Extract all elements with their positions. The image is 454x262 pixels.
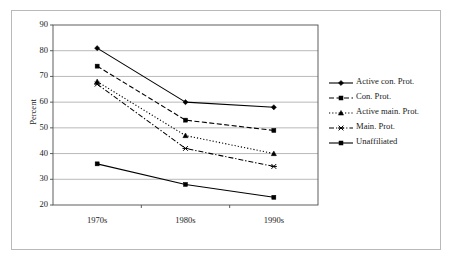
series-lines bbox=[97, 48, 274, 197]
series-line bbox=[97, 48, 274, 107]
plot-frame bbox=[53, 25, 318, 205]
legend-item-label: Active con. Prot. bbox=[356, 75, 414, 87]
chart-legend: Active con. Prot.Con. Prot.Active main. … bbox=[328, 73, 442, 148]
legend-item[interactable]: Active main. Prot. bbox=[328, 103, 442, 118]
legend-item[interactable]: Unaffiliated bbox=[328, 133, 442, 148]
legend-item-label: Main. Prot. bbox=[356, 120, 395, 132]
legend-item-label: Unaffiliated bbox=[356, 135, 397, 147]
series-line bbox=[97, 164, 274, 197]
grid-lines bbox=[53, 51, 318, 180]
legend-item[interactable]: Active con. Prot. bbox=[328, 73, 442, 88]
legend-item[interactable]: Con. Prot. bbox=[328, 88, 442, 103]
series-line bbox=[97, 82, 274, 154]
legend-marker-icon bbox=[328, 105, 354, 117]
legend-marker-icon bbox=[328, 135, 354, 147]
series-markers bbox=[94, 46, 277, 200]
chart-figure: Percent 2030405060708090 1970s1980s1990s… bbox=[11, 10, 441, 250]
legend-item-label: Con. Prot. bbox=[356, 90, 391, 102]
legend-item[interactable]: Main. Prot. bbox=[328, 118, 442, 133]
series-line bbox=[97, 84, 274, 166]
legend-marker-icon bbox=[328, 75, 354, 87]
legend-item-label: Active main. Prot. bbox=[356, 105, 419, 117]
legend-marker-icon bbox=[328, 90, 354, 102]
legend-marker-icon bbox=[328, 120, 354, 132]
